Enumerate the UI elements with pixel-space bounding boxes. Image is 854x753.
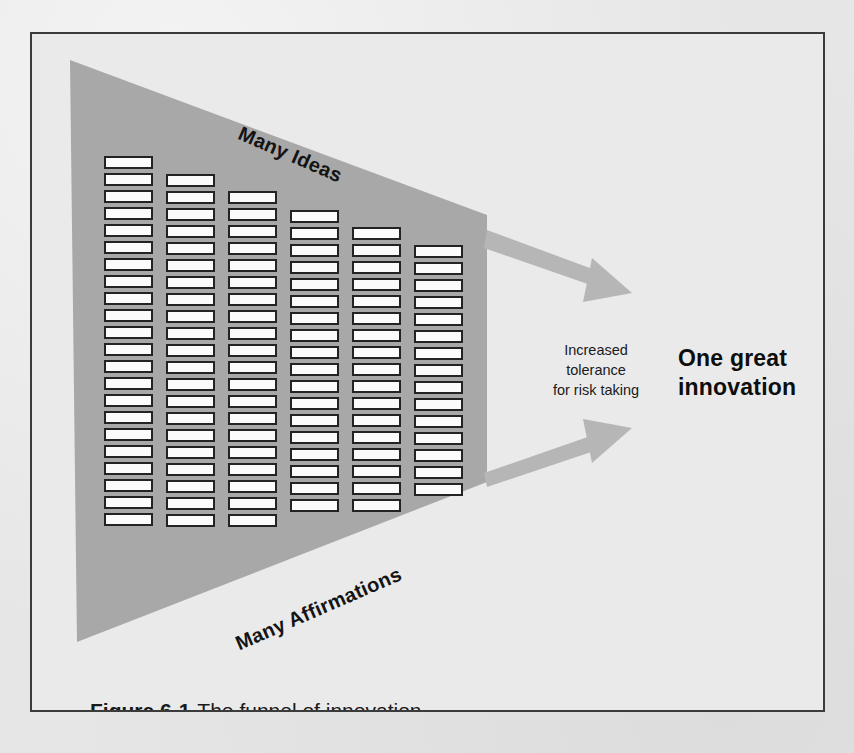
idea-bar (104, 190, 153, 203)
idea-bar (166, 395, 215, 408)
idea-bar (352, 363, 401, 376)
idea-bar (352, 261, 401, 274)
idea-bar (104, 462, 153, 475)
idea-bar (104, 394, 153, 407)
idea-bar (290, 261, 339, 274)
idea-bar (228, 446, 277, 459)
idea-bar (166, 242, 215, 255)
figure-caption-number: Figure 6-1 (90, 699, 190, 712)
idea-bar (228, 395, 277, 408)
idea-bar-column-6 (414, 245, 463, 500)
idea-bar (166, 191, 215, 204)
idea-bar (104, 224, 153, 237)
idea-bar (352, 380, 401, 393)
idea-bar (166, 497, 215, 510)
idea-bar (290, 380, 339, 393)
idea-bar (228, 344, 277, 357)
idea-bar (414, 398, 463, 411)
idea-bar-column-2 (166, 174, 215, 531)
idea-bar (352, 295, 401, 308)
idea-bar (228, 429, 277, 442)
idea-bar (352, 227, 401, 240)
idea-bar (166, 276, 215, 289)
idea-bar (166, 310, 215, 323)
idea-bar (290, 210, 339, 223)
idea-bar (228, 514, 277, 527)
idea-bar (290, 329, 339, 342)
idea-bar (414, 483, 463, 496)
idea-bar (352, 312, 401, 325)
idea-bar (290, 295, 339, 308)
figure-caption: Figure 6-1The funnel of innovation. (90, 699, 427, 712)
idea-bar (352, 499, 401, 512)
idea-bar (104, 241, 153, 254)
idea-bar (104, 258, 153, 271)
idea-bar (414, 432, 463, 445)
idea-bar (104, 445, 153, 458)
risk-tolerance-line-1: Increased (522, 340, 670, 360)
idea-bar (104, 343, 153, 356)
idea-bar (352, 329, 401, 342)
idea-bar (228, 463, 277, 476)
idea-bar (228, 378, 277, 391)
idea-bar (104, 411, 153, 424)
page-background: Many Ideas Many Affirmations Increased t… (0, 0, 854, 753)
idea-bar (414, 262, 463, 275)
idea-bar (414, 364, 463, 377)
idea-bar (352, 431, 401, 444)
idea-bar (352, 414, 401, 427)
idea-bar (228, 497, 277, 510)
idea-bar (228, 208, 277, 221)
idea-bar-column-5 (352, 227, 401, 516)
idea-bar (228, 293, 277, 306)
idea-bar (414, 313, 463, 326)
idea-bar (352, 397, 401, 410)
idea-bar (414, 296, 463, 309)
idea-bar (166, 327, 215, 340)
idea-bar (166, 514, 215, 527)
idea-bar (228, 412, 277, 425)
risk-tolerance-line-3: for risk taking (522, 380, 670, 400)
idea-bar (166, 429, 215, 442)
idea-bar (228, 259, 277, 272)
idea-bar (414, 449, 463, 462)
idea-bar (414, 245, 463, 258)
idea-bar (166, 446, 215, 459)
idea-bar (352, 448, 401, 461)
upper-output-arrow (484, 230, 632, 302)
risk-tolerance-line-2: tolerance (522, 360, 670, 380)
idea-bar (104, 360, 153, 373)
idea-bar (290, 397, 339, 410)
idea-bar (166, 293, 215, 306)
idea-bar (352, 278, 401, 291)
outcome-line-1: One great (678, 344, 825, 373)
figure-frame: Many Ideas Many Affirmations Increased t… (30, 32, 825, 712)
idea-bar (414, 279, 463, 292)
idea-bar (352, 465, 401, 478)
idea-bar (104, 326, 153, 339)
idea-bar (228, 480, 277, 493)
idea-bar (166, 174, 215, 187)
figure-canvas: Many Ideas Many Affirmations Increased t… (32, 34, 823, 710)
idea-bar (414, 415, 463, 428)
figure-caption-text: The funnel of innovation. (197, 699, 427, 712)
idea-bar (166, 225, 215, 238)
idea-bar (228, 276, 277, 289)
idea-bar (290, 414, 339, 427)
idea-bar (228, 242, 277, 255)
idea-bar (290, 278, 339, 291)
idea-bar (414, 347, 463, 360)
idea-bar (352, 346, 401, 359)
idea-bar-column-1 (104, 156, 153, 530)
idea-bar (104, 156, 153, 169)
idea-bar (290, 448, 339, 461)
risk-tolerance-annotation: Increased tolerance for risk taking (522, 340, 670, 400)
idea-bar (414, 381, 463, 394)
idea-bar (104, 428, 153, 441)
outcome-line-2: innovation (678, 373, 825, 402)
idea-bar (104, 173, 153, 186)
idea-bar (166, 463, 215, 476)
idea-bar (166, 412, 215, 425)
idea-bar (352, 482, 401, 495)
idea-bar (228, 327, 277, 340)
